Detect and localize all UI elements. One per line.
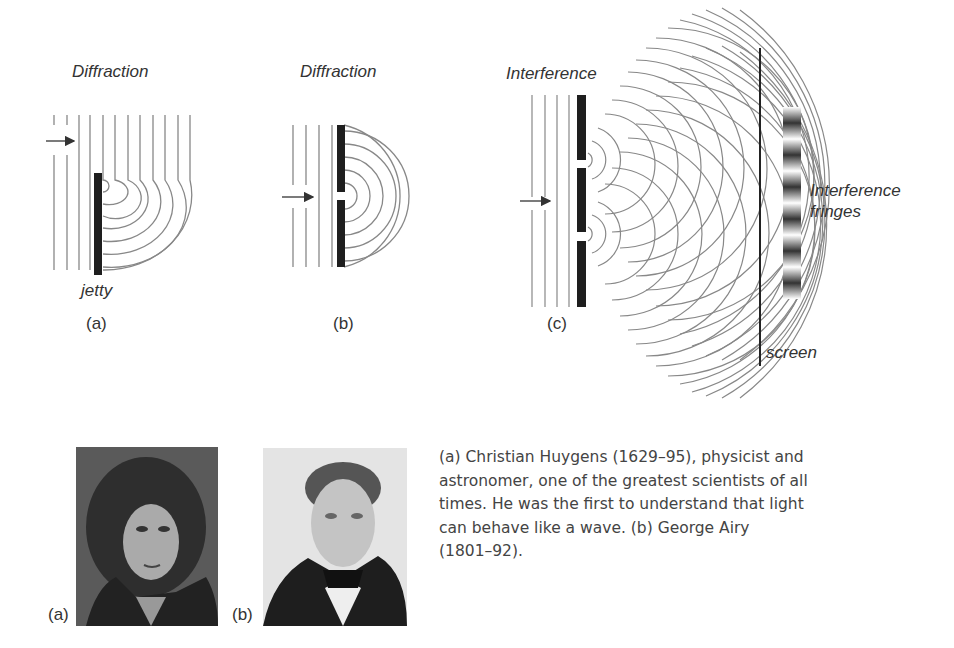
portrait-b-label: (b) [232,605,253,625]
fringes-label-line2: fringes [810,202,861,222]
portrait-huygens [76,447,218,626]
slit-barrier-top [337,125,345,192]
double-slit-barrier-bottom [577,241,586,307]
panel-a-drawing [54,115,192,270]
double-slit-barrier-middle [577,168,586,232]
panel-a-label: (a) [86,314,107,334]
figure-caption: (a) Christian Huygens (1629–95), physici… [439,446,909,564]
jetty-label: jetty [81,281,112,301]
panel-b-label: (b) [333,314,354,334]
fringes-label-line1: Interference [810,181,901,201]
panel-b-drawing [293,125,409,267]
screen-label: screen [766,343,817,363]
jetty-barrier [94,173,102,275]
double-slit-barrier-top [577,95,586,160]
portrait-a-label: (a) [48,605,69,625]
slit-barrier-bottom [337,200,345,267]
interference-fringes [783,107,801,299]
panel-c-label: (c) [547,314,567,334]
portrait-airy [263,448,407,626]
